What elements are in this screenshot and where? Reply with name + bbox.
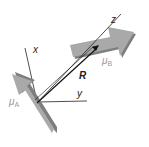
mu-b-label: μB bbox=[102, 56, 112, 66]
y-axis bbox=[37, 101, 87, 102]
r-vector-label: R bbox=[79, 71, 86, 81]
dipole-diagram bbox=[0, 0, 149, 147]
y-axis-label: y bbox=[77, 89, 82, 99]
x-axis-label: x bbox=[33, 45, 38, 55]
z-axis-label: z bbox=[111, 15, 116, 25]
mu-a-label: μA bbox=[9, 97, 19, 107]
